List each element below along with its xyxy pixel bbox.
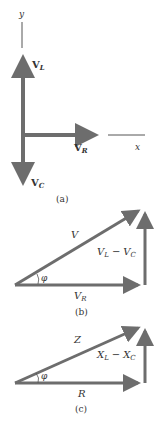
phi-label-c: φ: [41, 371, 48, 381]
panel-b: V φ VR VL−VC (b): [15, 211, 145, 317]
caption-c: (c): [75, 404, 87, 414]
panel-c: Z φ R XL−XC (c): [15, 328, 145, 414]
caption-a: (a): [56, 194, 68, 204]
caption-b: (b): [75, 307, 88, 317]
phi-label-b: φ: [41, 273, 48, 283]
vr-label: VR: [73, 142, 88, 155]
angle-arc-b: [37, 274, 39, 284]
x-axis-label: x: [135, 142, 140, 152]
vl-label: VL: [31, 59, 45, 72]
y-axis-label: y: [18, 9, 25, 19]
xl-minus-xc-label: XL−XC: [96, 349, 136, 362]
panel-a: y x VL VR VC (a): [18, 9, 145, 204]
phasor-diagram: y x VL VR VC (a) V φ VR VL−VC (b) Z φ R …: [0, 0, 159, 422]
vc-label: VC: [30, 177, 45, 190]
vl-minus-vc-label: VL−VC: [97, 246, 137, 259]
v-label: V: [71, 229, 80, 240]
z-label: Z: [73, 334, 82, 345]
vr-label-b: VR: [74, 290, 87, 303]
r-label: R: [77, 388, 86, 399]
